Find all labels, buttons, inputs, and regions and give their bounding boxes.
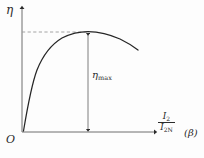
- x-axis-beta-label: (β): [184, 128, 198, 138]
- y-axis-label: η: [6, 4, 13, 16]
- origin-label: O: [6, 134, 15, 145]
- x-axis-label-fraction: I2 I2N: [158, 112, 175, 132]
- x-axis-numerator-subscript: 2: [166, 115, 170, 122]
- x-axis-denominator: I2N: [159, 123, 174, 132]
- x-axis-denominator-subscript: 2N: [164, 126, 173, 133]
- efficiency-curve: [24, 32, 139, 131]
- eta-max-subscript: max: [98, 74, 112, 82]
- x-axis-numerator: I2: [162, 112, 171, 121]
- efficiency-curve-figure: η O ηmax I2 I2N (β): [0, 0, 204, 158]
- eta-max-label: ηmax: [92, 70, 112, 80]
